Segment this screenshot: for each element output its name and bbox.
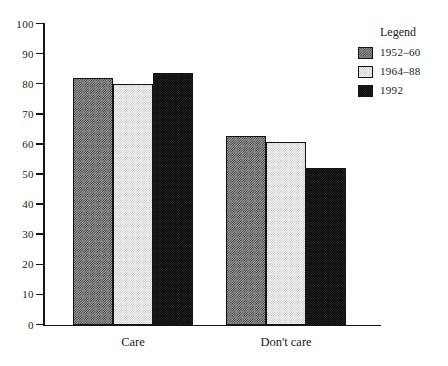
y-axis-tick (36, 173, 44, 175)
legend-entry: 1964–88 (358, 64, 446, 79)
y-axis-tick (36, 53, 44, 55)
y-axis-tick (36, 113, 44, 115)
y-axis-tick (36, 294, 44, 296)
y-axis-tick (36, 233, 44, 235)
y-axis-tick (36, 264, 44, 266)
bar (113, 84, 153, 325)
y-axis-tick-label: 0 (28, 319, 34, 330)
legend-title: Legend (380, 26, 446, 38)
bar (266, 142, 306, 324)
y-axis-tick-label: 90 (22, 48, 34, 59)
bar (306, 168, 346, 325)
legend-swatch (358, 66, 373, 78)
legend-swatch (358, 85, 373, 97)
y-axis-tick-label: 20 (22, 259, 34, 270)
y-axis-tick-label: 50 (22, 169, 34, 180)
y-axis-tick (36, 324, 44, 326)
y-axis-tick-label: 60 (22, 138, 34, 149)
legend-label: 1992 (380, 85, 403, 96)
y-axis-tick-label: 70 (22, 108, 34, 119)
bar (73, 78, 113, 325)
bar (226, 136, 266, 324)
y-axis-tick-label: 10 (22, 289, 34, 300)
legend-entry: 1952–60 (358, 45, 446, 60)
x-axis-label: Don't care (260, 336, 311, 349)
y-axis-tick (36, 23, 44, 25)
y-axis-tick (36, 143, 44, 145)
bar-chart: 1009080706050403020100 CareDon't care Le… (0, 0, 448, 366)
legend: Legend 1952–601964–881992 (358, 26, 446, 102)
y-axis-tick-label: 80 (22, 78, 34, 89)
y-axis-tick-label: 100 (16, 18, 34, 29)
y-axis-tick-label: 40 (22, 199, 34, 210)
y-axis-tick (36, 83, 44, 85)
x-axis-label: Care (121, 336, 145, 349)
legend-swatch (358, 47, 373, 59)
legend-entry: 1992 (358, 83, 446, 98)
legend-label: 1952–60 (380, 47, 421, 58)
legend-entries: 1952–601964–881992 (358, 45, 446, 98)
y-axis-tick-label: 30 (22, 229, 34, 240)
x-axis-line (43, 325, 381, 327)
y-axis-tick (36, 203, 44, 205)
legend-label: 1964–88 (380, 66, 421, 77)
bar (153, 73, 193, 324)
